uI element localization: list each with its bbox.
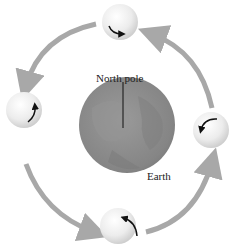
earth-label: Earth <box>147 170 171 182</box>
north-pole-label: North pole <box>96 72 143 84</box>
orbit-arrow-top-to-left <box>26 24 96 86</box>
moon-left <box>6 92 42 128</box>
moon-top <box>102 4 138 40</box>
moon-right <box>193 112 229 148</box>
diagram-canvas <box>0 0 234 246</box>
moon-orbit-diagram: North pole Earth <box>0 0 234 246</box>
moon-bottom <box>100 208 137 244</box>
orbit-arrow-left-to-bottom <box>26 164 94 232</box>
earth-globe <box>79 77 175 173</box>
